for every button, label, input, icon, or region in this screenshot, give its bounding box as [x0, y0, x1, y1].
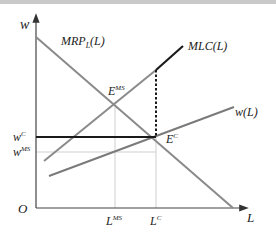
y-axis-label: w	[20, 17, 30, 32]
l-ms-label: LMS	[105, 214, 123, 228]
mlc-curve-upper	[156, 46, 183, 70]
x-axis-label: L	[246, 210, 254, 225]
e-c-label: EC	[165, 132, 178, 146]
origin-label: O	[18, 201, 28, 216]
supply-curve	[49, 107, 234, 176]
mlc-label: MLC(L)	[187, 39, 227, 53]
monopsony-diagram: w L O MRPL(L) MLC(L) w(L) EMS EC wC wMS …	[0, 0, 276, 234]
mlc-curve-lower	[44, 70, 156, 161]
w-ms-label: wMS	[13, 145, 31, 159]
e-ms-label: EMS	[107, 84, 125, 98]
mrp-curve	[36, 37, 233, 208]
l-c-label: LC	[149, 214, 162, 228]
mrp-label: MRPL(L)	[60, 34, 105, 50]
supply-label: w(L)	[235, 105, 258, 119]
w-c-label: wC	[13, 130, 26, 144]
